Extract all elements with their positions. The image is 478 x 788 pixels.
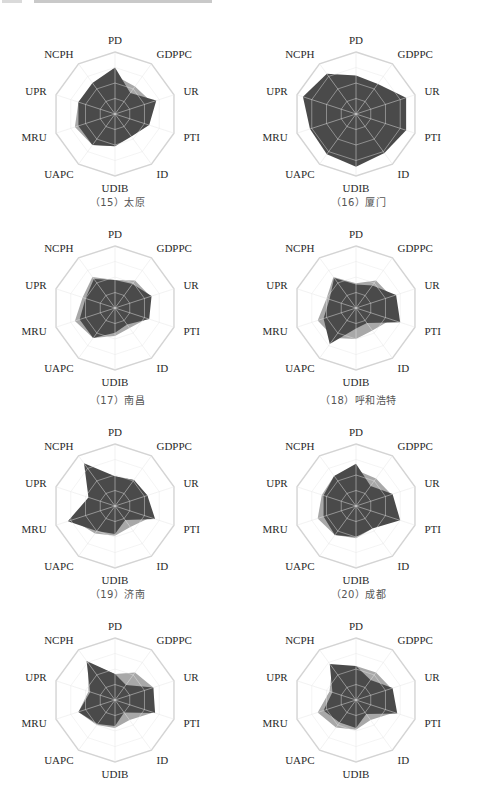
axis-label-ncph: NCPH (285, 440, 314, 452)
city-series-area (303, 74, 406, 167)
axis-label-pd: PD (349, 620, 363, 632)
chart-caption: （18）呼和浩特 (239, 392, 478, 407)
chart-caption: （16）厦门 (239, 194, 478, 209)
radar-chart: PDGDPPCURPTIIDUDIBUAPCMRUUPRNCPH (239, 410, 478, 590)
axis-label-pd: PD (108, 228, 122, 240)
axis-label-pti: PTI (424, 325, 441, 337)
axis-label-ur: UR (424, 671, 440, 683)
axis-label-udib: UDIB (102, 376, 129, 388)
axis-label-mru: MRU (22, 717, 47, 729)
axis-label-upr: UPR (25, 279, 47, 291)
axis-label-id: ID (156, 362, 168, 374)
axis-label-uapc: UAPC (285, 754, 314, 766)
axis-label-udib: UDIB (343, 376, 370, 388)
axis-label-udib: UDIB (102, 768, 129, 780)
axis-label-mru: MRU (263, 325, 288, 337)
axis-label-mru: MRU (263, 717, 288, 729)
axis-label-udib: UDIB (343, 768, 370, 780)
axis-label-ncph: NCPH (44, 48, 73, 60)
axis-label-upr: UPR (25, 671, 47, 683)
axis-label-mru: MRU (263, 131, 288, 143)
cropped-header (0, 0, 478, 4)
axis-label-ur: UR (424, 279, 440, 291)
axis-label-pd: PD (108, 426, 122, 438)
axis-label-pti: PTI (183, 131, 200, 143)
axis-label-id: ID (156, 560, 168, 572)
axis-label-pti: PTI (424, 717, 441, 729)
axis-label-ncph: NCPH (285, 48, 314, 60)
radar-chart-panel: PDGDPPCURPTIIDUDIBUAPCMRUUPRNCPH (0, 212, 239, 408)
radar-chart: PDGDPPCURPTIIDUDIBUAPCMRUUPRNCPH (239, 604, 478, 784)
radar-chart: PDGDPPCURPTIIDUDIBUAPCMRUUPRNCPH (0, 410, 239, 590)
axis-label-mru: MRU (263, 523, 288, 535)
axis-label-gdppc: GDPPC (156, 440, 191, 452)
axis-label-id: ID (397, 362, 409, 374)
axis-label-pti: PTI (183, 523, 200, 535)
axis-label-ncph: NCPH (44, 440, 73, 452)
axis-label-gdppc: GDPPC (156, 634, 191, 646)
chart-caption: （17）南昌 (0, 392, 237, 407)
axis-label-pd: PD (349, 34, 363, 46)
axis-label-ur: UR (183, 279, 199, 291)
axis-label-pti: PTI (424, 523, 441, 535)
chart-caption: （19）济南 (0, 586, 237, 601)
axis-label-ur: UR (424, 85, 440, 97)
axis-label-upr: UPR (266, 85, 288, 97)
axis-label-pd: PD (349, 426, 363, 438)
header-fragment (34, 0, 212, 3)
city-series-area (68, 463, 155, 534)
axis-label-pti: PTI (183, 325, 200, 337)
axis-label-ncph: NCPH (44, 634, 73, 646)
axis-label-pti: PTI (424, 131, 441, 143)
axis-label-uapc: UAPC (44, 168, 73, 180)
city-series-area (324, 464, 401, 537)
axis-label-udib: UDIB (343, 182, 370, 194)
axis-label-udib: UDIB (343, 574, 370, 586)
axis-label-upr: UPR (266, 671, 288, 683)
radar-chart-panel: PDGDPPCURPTIIDUDIBUAPCMRUUPRNCPH (239, 410, 478, 606)
axis-label-mru: MRU (22, 325, 47, 337)
axis-label-gdppc: GDPPC (397, 48, 432, 60)
axis-label-pti: PTI (183, 717, 200, 729)
axis-label-uapc: UAPC (44, 560, 73, 572)
axis-label-upr: UPR (25, 85, 47, 97)
axis-label-uapc: UAPC (44, 754, 73, 766)
chart-caption: （15）太原 (0, 194, 237, 209)
axis-label-pd: PD (108, 620, 122, 632)
radar-chart-panel: PDGDPPCURPTIIDUDIBUAPCMRUUPRNCPH (0, 18, 239, 214)
axis-label-gdppc: GDPPC (397, 634, 432, 646)
axis-label-id: ID (156, 168, 168, 180)
axis-label-mru: MRU (22, 523, 47, 535)
city-series-area (324, 664, 398, 728)
axis-label-uapc: UAPC (285, 560, 314, 572)
axis-label-ur: UR (424, 477, 440, 489)
axis-label-ur: UR (183, 85, 199, 97)
axis-label-gdppc: GDPPC (397, 242, 432, 254)
axis-label-mru: MRU (22, 131, 47, 143)
radar-chart: PDGDPPCURPTIIDUDIBUAPCMRUUPRNCPH (239, 18, 478, 198)
axis-label-id: ID (397, 560, 409, 572)
radar-chart-panel: PDGDPPCURPTIIDUDIBUAPCMRUUPRNCPH (239, 18, 478, 214)
axis-label-upr: UPR (266, 477, 288, 489)
radar-chart-panel: PDGDPPCURPTIIDUDIBUAPCMRUUPRNCPH (239, 212, 478, 408)
axis-label-ncph: NCPH (285, 634, 314, 646)
axis-label-ncph: NCPH (285, 242, 314, 254)
axis-label-id: ID (397, 754, 409, 766)
radar-chart: PDGDPPCURPTIIDUDIBUAPCMRUUPRNCPH (0, 212, 239, 392)
radar-chart-panel: PDGDPPCURPTIIDUDIBUAPCMRUUPRNCPH (0, 410, 239, 606)
axis-label-pd: PD (108, 34, 122, 46)
radar-chart-panel: PDGDPPCURPTIIDUDIBUAPCMRUUPRNCPH (239, 604, 478, 788)
axis-label-pd: PD (349, 228, 363, 240)
axis-label-ur: UR (183, 477, 199, 489)
axis-label-gdppc: GDPPC (156, 242, 191, 254)
axis-label-udib: UDIB (102, 182, 129, 194)
axis-label-gdppc: GDPPC (397, 440, 432, 452)
radar-chart: PDGDPPCURPTIIDUDIBUAPCMRUUPRNCPH (0, 604, 239, 784)
axis-label-uapc: UAPC (285, 168, 314, 180)
axis-label-gdppc: GDPPC (156, 48, 191, 60)
axis-label-upr: UPR (25, 477, 47, 489)
axis-label-ur: UR (183, 671, 199, 683)
axis-label-uapc: UAPC (285, 362, 314, 374)
chart-caption: （20）成都 (239, 586, 478, 601)
axis-label-ncph: NCPH (44, 242, 73, 254)
